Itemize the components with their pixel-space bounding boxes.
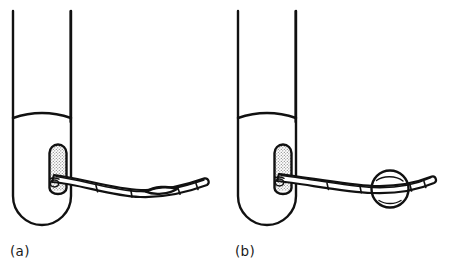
- panel-a-label: (a): [10, 243, 30, 259]
- stippled-retention-bolster: [273, 145, 293, 195]
- catheter-band-2: [131, 191, 132, 197]
- meniscus-line: [13, 113, 71, 118]
- figure-root: (a): [0, 0, 450, 269]
- catheter-shaft: [52, 175, 209, 197]
- inflated-balloon-arc-bottom: [379, 201, 401, 204]
- meniscus-line: [238, 113, 296, 118]
- stippled-retention-bolster: [48, 145, 68, 195]
- panel-b-label: (b): [235, 243, 255, 259]
- inflated-balloon-arc-top: [377, 177, 404, 181]
- catheter-shaft: [277, 174, 436, 193]
- panel-b: (b): [235, 11, 436, 259]
- diagram-canvas: (a): [0, 0, 450, 269]
- panel-a: (a): [10, 11, 209, 259]
